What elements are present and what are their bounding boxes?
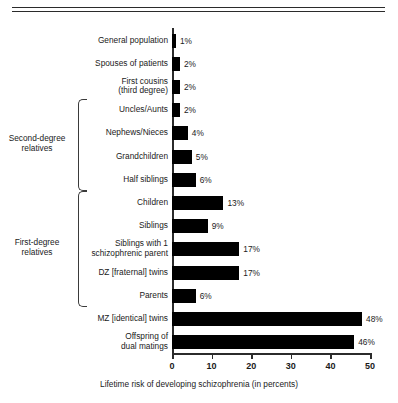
x-axis-tick: [251, 353, 253, 359]
bar-value-label: 4%: [192, 128, 204, 138]
bar: [172, 266, 239, 280]
bar: [172, 80, 180, 94]
table-row: DZ [fraternal] twins17%: [0, 260, 398, 285]
table-row: Uncles/Aunts2%: [0, 98, 398, 123]
table-row: Parents6%: [0, 283, 398, 308]
bar: [172, 196, 223, 210]
bar: [172, 57, 180, 71]
bar-value-label: 46%: [358, 337, 375, 347]
bar-category-label: Offspring of dual matings: [0, 333, 168, 352]
bar-category-label: MZ [identical] twins: [0, 314, 168, 324]
bar-wrapper: 46%: [172, 335, 375, 349]
bar: [172, 335, 354, 349]
table-row: Siblings9%: [0, 214, 398, 239]
chart-caption: Lifetime risk of developing schizophreni…: [0, 379, 398, 389]
bar-wrapper: 2%: [172, 103, 196, 117]
x-axis-tick: [212, 353, 214, 359]
bar: [172, 289, 196, 303]
table-row: Offspring of dual matings46%: [0, 330, 398, 355]
bar-chart: General population1%Spouses of patients2…: [0, 0, 398, 403]
bar-category-label: First cousins (third degree): [0, 77, 168, 96]
bar-wrapper: 4%: [172, 126, 204, 140]
x-axis-tick: [330, 353, 332, 359]
bar-wrapper: 6%: [172, 173, 212, 187]
x-axis-tick-label: 30: [286, 361, 296, 371]
x-axis-tick-label: 50: [365, 361, 375, 371]
bar-wrapper: 48%: [172, 312, 383, 326]
bar-value-label: 17%: [243, 244, 260, 254]
x-axis-tick-label: 0: [169, 361, 174, 371]
bar: [172, 150, 192, 164]
x-axis-tick: [172, 353, 174, 359]
bar-wrapper: 17%: [172, 242, 260, 256]
bar-value-label: 1%: [180, 36, 192, 46]
x-axis-line: [172, 353, 370, 355]
bar-value-label: 6%: [200, 291, 212, 301]
bar-wrapper: 17%: [172, 266, 260, 280]
bar-wrapper: 1%: [172, 34, 192, 48]
table-row: First cousins (third degree)2%: [0, 74, 398, 99]
bar-wrapper: 13%: [172, 196, 244, 210]
group-bracket-second-degree: [78, 99, 87, 192]
bar-category-label: Spouses of patients: [0, 59, 168, 69]
group-label-first-degree: First-degree relatives: [0, 238, 74, 257]
bar-value-label: 5%: [196, 152, 208, 162]
group-bracket-first-degree: [78, 191, 87, 307]
x-axis-tick: [291, 353, 293, 359]
bar-value-label: 2%: [184, 59, 196, 69]
bar-category-label: General population: [0, 36, 168, 46]
table-row: Spouses of patients2%: [0, 51, 398, 76]
bar-wrapper: 2%: [172, 57, 196, 71]
table-row: MZ [identical] twins48%: [0, 306, 398, 331]
table-row: Children13%: [0, 190, 398, 215]
table-row: Half siblings6%: [0, 167, 398, 192]
bar-value-label: 13%: [227, 198, 244, 208]
bar: [172, 103, 180, 117]
bar: [172, 173, 196, 187]
x-axis-tick-label: 20: [246, 361, 256, 371]
x-axis-tick: [370, 353, 372, 359]
bar-value-label: 6%: [200, 175, 212, 185]
bar-wrapper: 5%: [172, 150, 208, 164]
x-axis-tick-label: 40: [325, 361, 335, 371]
bar-wrapper: 9%: [172, 219, 224, 233]
bar-value-label: 17%: [243, 268, 260, 278]
bar-value-label: 48%: [366, 314, 383, 324]
bar: [172, 242, 239, 256]
table-row: General population1%: [0, 28, 398, 53]
bar-value-label: 2%: [184, 82, 196, 92]
bar-value-label: 9%: [212, 221, 224, 231]
bar-wrapper: 6%: [172, 289, 212, 303]
bar: [172, 126, 188, 140]
bar-wrapper: 2%: [172, 80, 196, 94]
bar: [172, 219, 208, 233]
bar: [172, 34, 176, 48]
bar-value-label: 2%: [184, 105, 196, 115]
group-label-second-degree: Second-degree relatives: [0, 134, 74, 153]
x-axis-tick-label: 10: [207, 361, 217, 371]
bar: [172, 312, 362, 326]
